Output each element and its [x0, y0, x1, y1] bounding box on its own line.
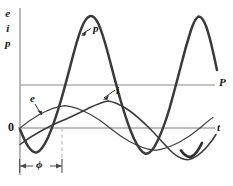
power-curve-label: p [93, 23, 99, 34]
average-power-label: P [219, 77, 226, 88]
phase-angle-label: ϕ [36, 159, 42, 170]
ac-power-waveform-figure: e i p 0 t P p i e ϕ [0, 0, 233, 186]
leader-arrow-p [81, 31, 87, 36]
current-curve-label: i [116, 85, 119, 96]
y-axis-label-p: p [5, 38, 11, 49]
y-axis-label-e: e [5, 8, 10, 19]
origin-label: 0 [8, 121, 14, 133]
leader-line-i [104, 90, 115, 98]
voltage-curve-label: e [30, 93, 35, 104]
leader-line-p [82, 29, 91, 35]
leader-arrow-i [103, 95, 109, 100]
t-axis-label: t [217, 122, 220, 133]
y-axis-label-i: i [6, 23, 9, 34]
y-axis-label-stack: e i p [5, 8, 11, 49]
